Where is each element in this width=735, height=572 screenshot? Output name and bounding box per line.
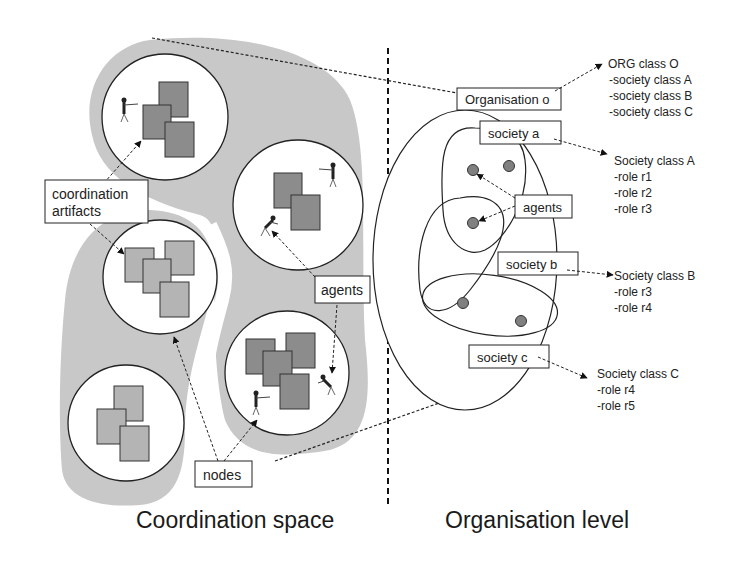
node-1 bbox=[102, 54, 228, 180]
organisation-diagram: Organisation o society a agents society … bbox=[373, 64, 613, 410]
class-item: -society class C bbox=[609, 105, 693, 119]
agent-dot bbox=[468, 165, 479, 176]
node-3 bbox=[103, 220, 217, 334]
agent-dot bbox=[504, 161, 515, 172]
class-title: Society class A bbox=[614, 154, 695, 168]
label-text: society c bbox=[477, 350, 528, 365]
society-class-a-block: Society class A -role r1 -role r2 -role … bbox=[614, 154, 695, 216]
artifact bbox=[291, 195, 320, 230]
box-organisation: Organisation o bbox=[457, 88, 561, 110]
artifact bbox=[160, 282, 189, 317]
box-society-b: society b bbox=[498, 252, 578, 275]
callout-nodes: nodes bbox=[195, 461, 252, 487]
class-title: ORG class O bbox=[608, 57, 679, 71]
arrow bbox=[554, 139, 607, 154]
class-item: -role r3 bbox=[614, 202, 652, 216]
class-title: Society class C bbox=[597, 367, 679, 381]
class-item: -society class B bbox=[609, 89, 692, 103]
label-text: artifacts bbox=[52, 203, 101, 219]
agent-dot bbox=[468, 218, 479, 229]
label-text: society a bbox=[488, 126, 540, 141]
diagram-canvas: coordination artifacts agents nodes Orga… bbox=[0, 0, 735, 572]
box-society-c: society c bbox=[469, 345, 549, 368]
section-title-organisation-level: Organisation level bbox=[445, 507, 629, 533]
node-2 bbox=[233, 140, 363, 270]
class-item: -role r4 bbox=[614, 301, 652, 315]
society-class-c-block: Society class C -role r4 -role r5 bbox=[597, 367, 679, 413]
class-item: -role r3 bbox=[614, 285, 652, 299]
class-item: -role r2 bbox=[614, 186, 652, 200]
box-society-a: society a bbox=[480, 121, 561, 144]
artifact bbox=[165, 122, 194, 157]
callout-agents-left: agents bbox=[315, 276, 370, 303]
callout-coordination-artifacts: coordination artifacts bbox=[45, 180, 148, 223]
arrow bbox=[555, 64, 602, 91]
artifact bbox=[280, 374, 309, 409]
label-text: agents bbox=[321, 282, 363, 298]
label-text: society b bbox=[506, 257, 557, 272]
node-4 bbox=[68, 365, 184, 481]
agent-dot bbox=[458, 298, 469, 309]
node-5 bbox=[225, 311, 349, 435]
box-agents-right: agents bbox=[515, 195, 572, 218]
class-item: -role r4 bbox=[597, 383, 635, 397]
class-title: Society class B bbox=[614, 269, 695, 283]
class-item: -role r1 bbox=[614, 170, 652, 184]
artifact bbox=[120, 426, 149, 461]
class-item: -role r5 bbox=[597, 399, 635, 413]
agent-dot bbox=[516, 316, 527, 327]
class-item: -society class A bbox=[609, 73, 692, 87]
label-text: coordination bbox=[52, 186, 128, 202]
label-text: nodes bbox=[203, 467, 241, 483]
section-title-coordination-space: Coordination space bbox=[136, 507, 334, 533]
society-class-b-block: Society class B -role r3 -role r4 bbox=[614, 269, 695, 315]
label-text: agents bbox=[523, 200, 563, 215]
label-text: Organisation o bbox=[465, 92, 550, 107]
org-class-block: ORG class O -society class A -society cl… bbox=[608, 57, 693, 119]
